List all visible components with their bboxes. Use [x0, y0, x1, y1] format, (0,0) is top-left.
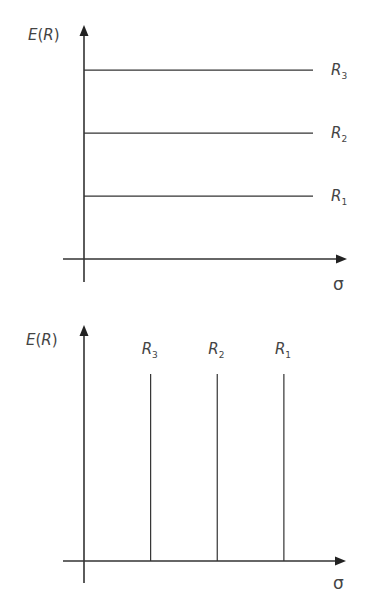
chart-vertical-lines: E(R) σ R3R2R1 [26, 325, 346, 593]
x-axis-arrowhead [336, 255, 347, 264]
chart-horizontal-lines: E(R) σ R3R2R1 [28, 25, 347, 294]
y-axis-arrowhead [80, 25, 89, 36]
label-r3: R3 [142, 340, 158, 360]
y-axis-label: E(R) [26, 331, 58, 349]
label-r2: R2 [208, 340, 224, 360]
x-axis-label: σ [333, 274, 344, 294]
y-axis-arrowhead [80, 325, 89, 336]
label-r3: R3 [331, 61, 347, 81]
x-axis-arrowhead [335, 557, 346, 566]
label-r1: R1 [275, 340, 291, 360]
label-r1: R1 [331, 187, 347, 207]
y-axis-label: E(R) [28, 26, 60, 44]
x-axis-label: σ [333, 573, 344, 593]
label-r2: R2 [331, 124, 347, 144]
diagram-canvas: E(R) σ R3R2R1 E(R) σ R3R2R1 [0, 0, 366, 614]
